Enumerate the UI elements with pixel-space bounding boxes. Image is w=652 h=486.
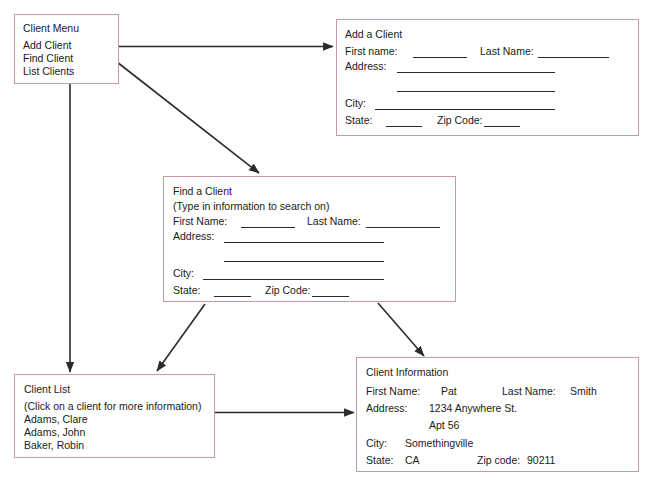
client-information-last-name-label: Last Name:	[502, 385, 556, 397]
client-menu-title: Client Menu	[23, 22, 79, 34]
add-client-city-label: City:	[345, 97, 366, 109]
client-information-city-value: Somethingville	[405, 437, 473, 449]
find-client-first-name-input[interactable]	[241, 227, 295, 228]
find-client-zip-code-label: Zip Code:	[265, 284, 311, 296]
add-client-title: Add a Client	[345, 28, 402, 40]
add-client-address-line1-input[interactable]	[397, 72, 555, 73]
add-client-box: Add a Client First name: Last Name: Addr…	[336, 19, 639, 136]
client-information-state-label: State:	[366, 454, 393, 466]
find-client-first-name-label: First Name:	[173, 215, 227, 227]
client-information-state-value: CA	[405, 454, 420, 466]
find-client-state-input[interactable]	[214, 296, 251, 297]
add-client-state-input[interactable]	[386, 126, 422, 127]
find-client-city-label: City:	[173, 267, 194, 279]
client-information-zip-code-label: Zip code:	[477, 454, 520, 466]
client-menu-box[interactable]: Client Menu Add Client Find Client List …	[14, 14, 119, 84]
find-client-box: Find a Client (Type in information to se…	[163, 176, 456, 302]
add-client-zip-code-label: Zip Code:	[437, 114, 483, 126]
find-client-address-line2-input[interactable]	[224, 261, 384, 262]
client-information-last-name-value: Smith	[570, 385, 597, 397]
find-client-title: Find a Client	[173, 185, 232, 197]
client-list-item-3[interactable]: Baker, Robin	[24, 439, 84, 451]
client-list-box: Client List (Click on a client for more …	[14, 374, 215, 458]
find-client-zip-code-input[interactable]	[312, 296, 349, 297]
client-information-first-name-label: First Name:	[366, 385, 420, 397]
client-information-first-name-value: Pat	[441, 385, 457, 397]
client-list-item-2[interactable]: Adams, John	[24, 426, 85, 438]
menu-item-add-client[interactable]: Add Client	[23, 39, 71, 51]
add-client-last-name-input[interactable]	[538, 57, 609, 58]
find-client-state-label: State:	[173, 284, 200, 296]
client-list-note: (Click on a client for more information)	[24, 400, 201, 412]
arrow-menu-to-find-client	[117, 62, 259, 173]
client-information-title: Client Information	[366, 366, 448, 378]
add-client-city-input[interactable]	[375, 109, 555, 110]
menu-item-find-client[interactable]: Find Client	[23, 52, 73, 64]
flow-diagram-canvas: Client Menu Add Client Find Client List …	[0, 0, 652, 486]
find-client-last-name-label: Last Name:	[307, 215, 361, 227]
find-client-city-input[interactable]	[203, 279, 384, 280]
client-information-box: Client Information First Name: Pat Last …	[356, 357, 639, 472]
client-list-item-1[interactable]: Adams, Clare	[24, 413, 88, 425]
menu-item-list-clients[interactable]: List Clients	[23, 65, 74, 77]
client-information-city-label: City:	[366, 437, 387, 449]
client-information-address-label: Address:	[366, 402, 407, 414]
arrow-find-client-to-client-information	[378, 303, 424, 356]
find-client-address-label: Address:	[173, 230, 214, 242]
client-list-title: Client List	[24, 383, 70, 395]
find-client-note: (Type in information to search on)	[173, 200, 329, 212]
add-client-last-name-label: Last Name:	[480, 45, 534, 57]
find-client-address-line1-input[interactable]	[224, 242, 384, 243]
add-client-first-name-label: First name:	[345, 45, 398, 57]
client-information-zip-code-value: 90211	[527, 454, 555, 466]
client-information-address-line1-value: 1234 Anywhere St.	[429, 402, 517, 414]
arrow-find-client-to-client-list	[157, 304, 205, 371]
client-information-address-line2-value: Apt 56	[429, 419, 459, 431]
add-client-state-label: State:	[345, 114, 372, 126]
add-client-first-name-input[interactable]	[413, 57, 467, 58]
add-client-address-label: Address:	[345, 60, 386, 72]
add-client-zip-code-input[interactable]	[484, 126, 520, 127]
add-client-address-line2-input[interactable]	[397, 91, 555, 92]
find-client-last-name-input[interactable]	[366, 227, 440, 228]
